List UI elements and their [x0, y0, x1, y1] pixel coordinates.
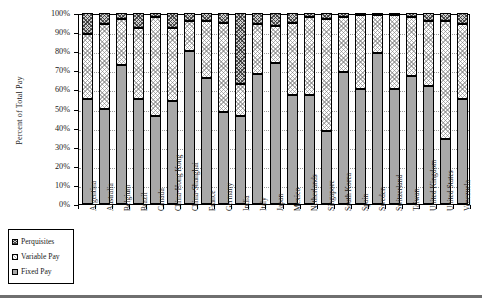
x-tick-label: Taiwan: [413, 189, 421, 211]
x-tick-mark: [368, 205, 369, 209]
x-tick-mark: [334, 205, 335, 209]
x-tick-label: South Korea: [345, 173, 353, 211]
x-tick-mark: [470, 205, 471, 209]
page-bottom-rule: [0, 295, 482, 298]
x-tick-label: Belgium: [124, 185, 132, 211]
x-tick-label: India: [243, 195, 251, 211]
x-tick-mark: [385, 205, 386, 209]
x-tick-mark: [129, 205, 130, 209]
x-tick-label: Venezuela: [464, 180, 472, 211]
x-tick-label: France: [209, 190, 217, 211]
x-tick-label: Canada: [158, 188, 166, 211]
legend-swatch-fixed-pay-icon: [12, 269, 18, 275]
x-tick-mark: [197, 205, 198, 209]
x-tick-label: Australia: [107, 183, 115, 211]
x-tick-mark: [265, 205, 266, 209]
x-tick-label: Singapore: [328, 180, 336, 211]
x-tick-mark: [163, 205, 164, 209]
x-tick-mark: [300, 205, 301, 209]
x-tick-mark: [214, 205, 215, 209]
legend-item-perquisites: Perquisites: [12, 234, 70, 249]
x-tick-mark: [146, 205, 147, 209]
x-tick-mark: [436, 205, 437, 209]
x-tick-label: Brazil: [141, 192, 149, 211]
x-tick-label: Spain: [362, 194, 370, 211]
x-tick-label: China-Shanghai: [192, 162, 200, 211]
x-tick-label: Mexico: [294, 188, 302, 211]
x-tick-label: Italy: [260, 197, 268, 211]
x-tick-label: Argentina: [90, 181, 98, 211]
x-tick-mark: [453, 205, 454, 209]
legend-label-variable-pay: Variable Pay: [21, 253, 60, 261]
x-tick-mark: [95, 205, 96, 209]
legend-item-variable-pay: Variable Pay: [12, 249, 70, 264]
chart-legend: Perquisites Variable Pay Fixed Pay: [8, 229, 74, 284]
x-tick-mark: [231, 205, 232, 209]
x-tick-label: United Kingdom: [430, 160, 438, 211]
x-tick-label: Germany: [226, 183, 234, 211]
chart-figure: Percent of Total Pay 100%90%80%70%60%50%…: [0, 0, 482, 302]
x-tick-mark: [78, 205, 79, 209]
x-tick-mark: [283, 205, 284, 209]
x-tick-label: Netherlands: [311, 174, 319, 211]
legend-swatch-variable-pay-icon: [12, 254, 18, 260]
legend-swatch-perquisites-icon: [12, 239, 18, 245]
x-tick-label: Japan: [277, 194, 285, 211]
x-tick-label: Sweden: [379, 187, 387, 211]
x-tick-mark: [419, 205, 420, 209]
legend-item-fixed-pay: Fixed Pay: [12, 264, 70, 279]
x-tick-mark: [112, 205, 113, 209]
legend-label-fixed-pay: Fixed Pay: [21, 268, 52, 276]
legend-label-perquisites: Perquisites: [21, 238, 54, 246]
x-tick-mark: [402, 205, 403, 209]
x-tick-mark: [248, 205, 249, 209]
x-tick-mark: [180, 205, 181, 209]
x-tick-label: Switzerland: [396, 175, 404, 211]
x-tick-label: China-Hong Kong: [175, 155, 183, 211]
x-tick-label: United States: [447, 170, 455, 211]
x-tick-mark: [317, 205, 318, 209]
x-tick-mark: [351, 205, 352, 209]
